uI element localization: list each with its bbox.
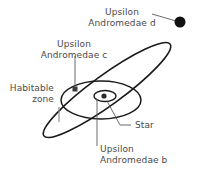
label-planet-b-line1: Upsilon [100, 144, 134, 154]
leader-line-star [107, 101, 131, 125]
label-star: Star [135, 120, 154, 130]
star-marker [101, 93, 106, 98]
planet-c-marker [73, 87, 78, 92]
planet-d-marker [175, 17, 186, 28]
label-habitable-zone-line1: Habitable [10, 83, 55, 93]
label-habitable-zone-line2: zone [32, 94, 54, 104]
orbit-diagram: Upsilon Andromedae d Upsilon Andromedae … [0, 0, 205, 183]
diagram-canvas: Upsilon Andromedae d Upsilon Andromedae … [0, 0, 205, 183]
label-planet-d-line2: Andromedae d [88, 18, 155, 28]
label-planet-c-line2: Andromedae c [41, 50, 108, 60]
label-planet-d-line1: Upsilon [105, 7, 139, 17]
label-planet-b-line2: Andromedae b [100, 155, 168, 165]
label-planet-c-line1: Upsilon [57, 39, 91, 49]
